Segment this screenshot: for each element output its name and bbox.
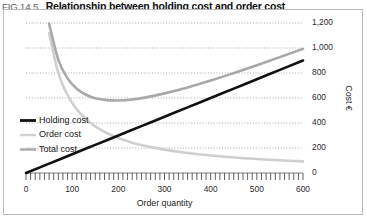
x-tick-label: 100 <box>65 184 79 194</box>
chart-canvas: 02004006008001,0001,200 0100200300400500… <box>4 10 364 216</box>
y-tick-labels-group: 02004006008001,0001,200 <box>312 17 333 177</box>
series-line-order-cost <box>49 33 303 161</box>
x-tick-label: 500 <box>250 184 264 194</box>
series-line-total-cost <box>49 24 303 101</box>
figure-frame: 02004006008001,0001,200 0100200300400500… <box>3 9 363 215</box>
x-minor-ticks-group <box>26 173 303 180</box>
x-tick-label: 600 <box>296 184 310 194</box>
x-tick-label: 400 <box>204 184 218 194</box>
x-tick-labels-group: 0100200300400500600 <box>24 184 311 194</box>
chart-svg: 02004006008001,0001,200 0100200300400500… <box>4 10 364 216</box>
x-tick-label: 0 <box>24 184 29 194</box>
y-tick-label: 200 <box>312 142 326 152</box>
legend-label: Holding cost <box>39 115 89 125</box>
y-tick-label: 1,200 <box>312 17 333 27</box>
y-tick-label: 400 <box>312 117 326 127</box>
y-tick-label: 1,000 <box>312 42 333 52</box>
x-axis-title: Order quantity <box>137 198 193 208</box>
x-tick-label: 200 <box>111 184 125 194</box>
x-tick-label: 300 <box>158 184 172 194</box>
y-tick-label: 600 <box>312 92 326 102</box>
legend-label: Total cost <box>39 144 78 154</box>
y-tick-label: 800 <box>312 67 326 77</box>
legend-label: Order cost <box>39 129 82 139</box>
y-tick-label: 0 <box>312 167 317 177</box>
chart-legend: Holding costOrder costTotal cost <box>20 115 89 154</box>
y-axis-title: Cost € <box>344 85 354 111</box>
